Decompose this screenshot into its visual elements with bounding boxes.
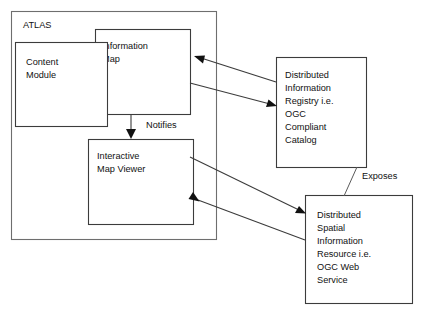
node-content-module: Content Module — [16, 43, 108, 127]
arrowhead-icon-notifies — [126, 129, 136, 139]
resource-label-line6: Service — [317, 275, 348, 285]
resource-label-line2: Spatial — [317, 223, 345, 233]
architecture-diagram: ATLAS Information Map Content Module Int… — [0, 0, 424, 318]
edge-exposes-line — [344, 167, 357, 196]
content-module-label-line1: Content — [26, 57, 59, 67]
interactive-map-viewer-label-line2: Map Viewer — [97, 164, 145, 174]
registry-label-line4: OGC — [285, 109, 306, 119]
diagram-canvas: ATLAS Information Map Content Module Int… — [0, 0, 424, 318]
edge-label-notifies: Notifies — [146, 120, 177, 130]
edge-spatial-resource-to-interactive-map-viewer-line — [198, 200, 305, 240]
edge-registry-to-information-map — [194, 56, 276, 83]
edge-information-map-to-registry — [190, 83, 277, 107]
arrowhead-icon-to-spatial-resource — [295, 206, 306, 214]
interactive-map-viewer-label-line1: Interactive — [97, 151, 139, 161]
edge-exposes: Exposes — [344, 167, 398, 196]
resource-label-line5: OGC Web — [317, 262, 359, 272]
resource-label-line1: Distributed — [317, 210, 361, 220]
registry-label-line1: Distributed — [285, 70, 329, 80]
content-module-rect — [16, 43, 108, 127]
edge-information-map-to-registry-line — [190, 83, 270, 104]
edge-notifies: Notifies — [126, 115, 177, 139]
registry-label-line5: Compliant — [285, 122, 327, 132]
node-interactive-map-viewer: Interactive Map Viewer — [89, 140, 194, 225]
content-module-label-line2: Module — [26, 70, 56, 80]
resource-label-line3: Information — [317, 236, 363, 246]
node-information-map: Information Map — [96, 30, 191, 115]
information-map-label-line1: Information — [102, 41, 148, 51]
edge-spatial-resource-to-interactive-map-viewer — [189, 192, 306, 240]
registry-label-line3: Registry i.e. — [285, 96, 334, 106]
resource-label-line4: Resource i.e. — [317, 249, 371, 259]
node-distributed-spatial-information-resource: Distributed Spatial Information Resource… — [306, 196, 413, 304]
arrowhead-icon-to-information-map — [194, 56, 205, 64]
arrowhead-icon-to-registry — [266, 100, 277, 108]
node-distributed-information-registry: Distributed Information Registry i.e. OG… — [277, 58, 367, 168]
atlas-container-label: ATLAS — [23, 20, 51, 30]
edge-label-exposes: Exposes — [362, 171, 398, 181]
registry-label-line2: Information — [285, 83, 331, 93]
registry-label-line6: Catalog — [285, 135, 317, 145]
edge-registry-to-information-map-line — [201, 58, 276, 82]
